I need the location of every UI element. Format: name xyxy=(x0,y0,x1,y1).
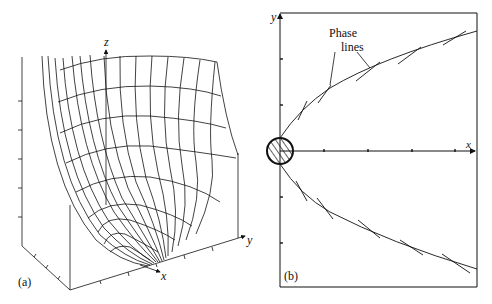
panel-a-surface-plot xyxy=(18,50,245,290)
y-ticks xyxy=(100,247,213,284)
annotation-phase: Phase xyxy=(329,26,357,40)
panel-b-label: (b) xyxy=(284,269,298,283)
z-ticks xyxy=(18,101,22,217)
y-axis-base xyxy=(70,236,245,290)
surface-level-curves xyxy=(58,56,236,260)
figure: z y x (a) xyxy=(0,0,492,304)
y-axis-label-a: y xyxy=(246,233,253,247)
annotation-leader-1 xyxy=(330,52,335,85)
upper-phase-curve xyxy=(280,31,477,138)
panel-a-label: (a) xyxy=(18,275,31,289)
x-axis-label-b: x xyxy=(465,138,471,150)
lower-phase-curve xyxy=(280,164,477,269)
annotation-lines: lines xyxy=(341,40,364,54)
y-axis-label-b: y xyxy=(270,10,277,24)
x-axis-label-a: x xyxy=(160,269,167,283)
z-axis-label: z xyxy=(103,35,109,49)
annotation-leader-2 xyxy=(357,52,370,68)
depth-ticks xyxy=(34,254,60,279)
singular-region-disc xyxy=(267,138,293,164)
panel-b-phase-plot xyxy=(267,13,477,287)
